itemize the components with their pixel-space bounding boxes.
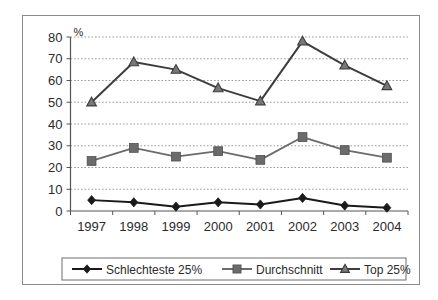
y-axis-tick-label: 40 — [48, 117, 62, 132]
x-axis-tick-label: 1999 — [162, 219, 191, 234]
y-axis-tick-label: 20 — [48, 160, 62, 175]
y-axis-tick-label: 80 — [48, 30, 62, 45]
data-point-marker-diamond — [88, 196, 96, 205]
data-point-marker-square — [129, 144, 138, 153]
x-axis-tick-label: 1998 — [119, 219, 148, 234]
data-point-marker-square — [214, 147, 223, 156]
line-chart: 01020304050607080%1997199819992000200120… — [0, 0, 438, 300]
x-axis-tick-label: 1997 — [77, 219, 106, 234]
series-1 — [88, 193, 391, 212]
y-axis-tick-label: 0 — [55, 204, 62, 219]
data-point-marker-square — [383, 153, 392, 162]
legend-label: Durchschnitt — [256, 263, 323, 277]
data-point-marker-square — [233, 265, 241, 273]
data-point-marker-diamond — [341, 201, 349, 210]
x-axis-tick-label: 2003 — [330, 219, 359, 234]
gridlines-group — [71, 37, 409, 189]
y-axis-tick-label: 30 — [48, 138, 62, 153]
y-axis-tick-label: 10 — [48, 182, 62, 197]
y-axis-tick-label: 70 — [48, 51, 62, 66]
data-point-marker-square — [172, 152, 181, 161]
data-point-marker-square — [340, 146, 349, 155]
series-3 — [87, 36, 392, 106]
series-line — [92, 41, 387, 102]
data-point-marker-triangle — [298, 36, 308, 45]
data-point-marker-square — [256, 155, 265, 164]
x-axis-tick-label: 2002 — [288, 219, 317, 234]
data-point-marker-triangle — [340, 60, 350, 69]
data-point-marker-square — [298, 133, 307, 142]
x-axis-tick-label: 2001 — [246, 219, 275, 234]
data-point-marker-diamond — [299, 193, 307, 202]
data-point-marker-triangle — [129, 57, 139, 66]
x-axis-group: 19971998199920002001200220032004 — [71, 211, 409, 234]
chart-screenshot: 01020304050607080%1997199819992000200120… — [0, 0, 438, 300]
x-axis-tick-label: 2000 — [204, 219, 233, 234]
legend-label: Top 25% — [364, 263, 411, 277]
series-2 — [87, 133, 391, 166]
y-axis-ticks-group: 01020304050607080 — [48, 30, 70, 219]
data-point-marker-diamond — [172, 202, 180, 211]
legend-label: Schlechteste 25% — [106, 263, 202, 277]
y-axis-unit-label: % — [74, 26, 84, 38]
data-point-marker-diamond — [214, 198, 222, 207]
y-axis-tick-label: 50 — [48, 95, 62, 110]
chart-legend: Schlechteste 25%DurchschnittTop 25% — [62, 258, 411, 280]
x-axis-tick-label: 2004 — [372, 219, 401, 234]
y-axis-tick-label: 60 — [48, 73, 62, 88]
data-point-marker-diamond — [130, 198, 138, 207]
data-point-marker-square — [87, 157, 96, 166]
data-point-marker-diamond — [256, 200, 264, 209]
